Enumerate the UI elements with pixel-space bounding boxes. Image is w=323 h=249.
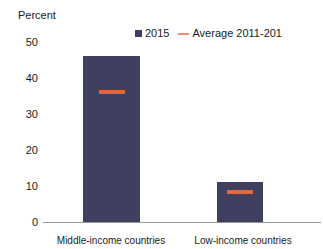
x-category-label-middle-income: Middle-income countries <box>57 235 165 247</box>
average-marker-low-income <box>227 190 253 194</box>
y-tick-label-30: 30 <box>12 109 38 120</box>
y-tick-label-0: 0 <box>12 217 38 228</box>
x-axis-line <box>43 222 321 223</box>
average-marker-middle-income <box>99 90 125 94</box>
bar-chart: Percent 2015 Average 2011-201 50 40 30 2… <box>0 0 323 249</box>
y-tick-label-10: 10 <box>12 181 38 192</box>
bar-low-income-2015 <box>217 182 263 222</box>
y-tick-label-50: 50 <box>12 37 38 48</box>
x-category-label-low-income: Low-income countries <box>194 235 291 247</box>
plot-area: 50 40 30 20 10 0 Middle-income countries… <box>0 0 323 249</box>
y-tick-label-20: 20 <box>12 145 38 156</box>
bar-middle-income-2015 <box>83 56 140 222</box>
y-tick-label-40: 40 <box>12 73 38 84</box>
